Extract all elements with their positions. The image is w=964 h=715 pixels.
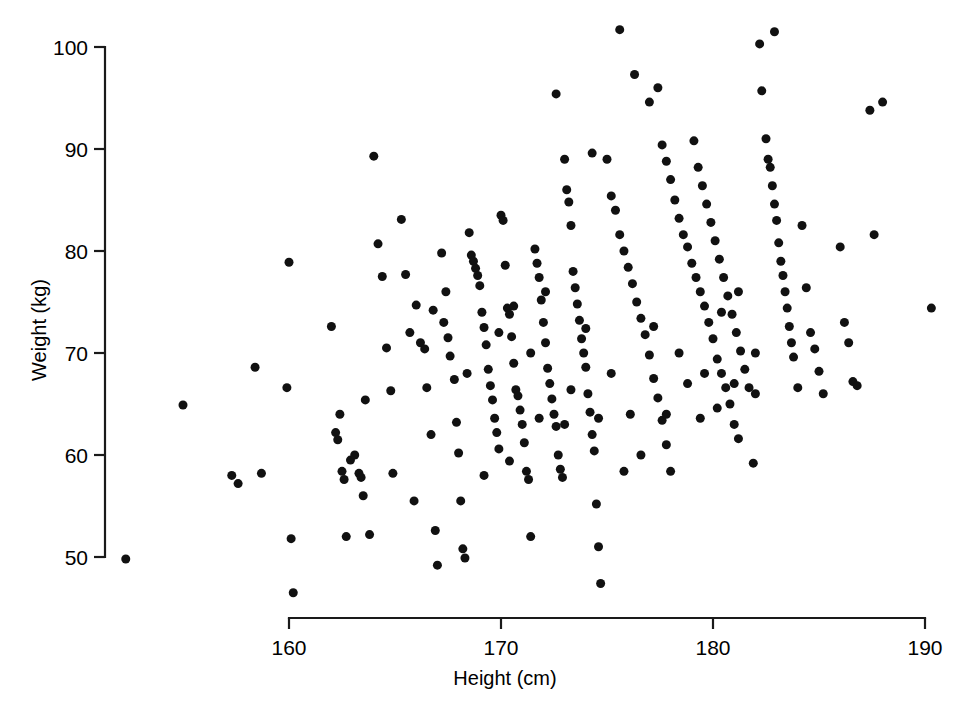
data-point — [736, 346, 745, 355]
data-point — [641, 330, 650, 339]
data-point — [619, 467, 628, 476]
data-point — [386, 386, 395, 395]
data-point — [378, 272, 387, 281]
data-point — [121, 555, 130, 564]
data-point — [566, 221, 575, 230]
data-point — [689, 136, 698, 145]
data-point — [560, 155, 569, 164]
data-point — [501, 261, 510, 270]
data-point — [227, 471, 236, 480]
data-point — [594, 414, 603, 423]
data-point — [766, 163, 775, 172]
data-point — [719, 273, 728, 282]
data-point — [658, 140, 667, 149]
y-axis: 5060708090100 — [53, 36, 105, 569]
data-point — [607, 369, 616, 378]
data-point — [762, 134, 771, 143]
data-point — [437, 249, 446, 258]
data-point — [630, 70, 639, 79]
data-point — [545, 379, 554, 388]
data-point — [547, 394, 556, 403]
y-tick-label: 80 — [65, 240, 88, 263]
data-point — [702, 200, 711, 209]
data-point — [541, 338, 550, 347]
data-point — [751, 349, 760, 358]
data-point — [694, 163, 703, 172]
x-tick-label: 180 — [695, 636, 730, 659]
data-point — [776, 257, 785, 266]
data-point — [526, 532, 535, 541]
data-point — [342, 532, 351, 541]
data-point — [725, 400, 734, 409]
data-point — [653, 393, 662, 402]
data-point — [734, 434, 743, 443]
data-point — [783, 304, 792, 313]
data-point — [234, 479, 243, 488]
data-point — [535, 414, 544, 423]
y-tick-label: 90 — [65, 138, 88, 161]
y-tick-label: 60 — [65, 444, 88, 467]
data-point — [463, 369, 472, 378]
data-point — [594, 542, 603, 551]
data-point — [492, 428, 501, 437]
data-point — [410, 496, 419, 505]
data-point — [764, 155, 773, 164]
data-point — [819, 389, 828, 398]
data-point — [836, 242, 845, 251]
data-point — [482, 340, 491, 349]
data-point — [628, 279, 637, 288]
data-point — [596, 579, 605, 588]
data-point — [518, 420, 527, 429]
data-point — [793, 383, 802, 392]
data-point — [755, 39, 764, 48]
data-point — [615, 25, 624, 34]
data-point — [333, 435, 342, 444]
data-point — [257, 469, 266, 478]
scatter-plot-figure: 5060708090100 160170180190 Weight (kg) H… — [0, 0, 964, 715]
data-point — [581, 363, 590, 372]
data-point — [494, 444, 503, 453]
data-point — [853, 381, 862, 390]
data-point — [670, 196, 679, 205]
data-point — [520, 438, 529, 447]
data-point — [770, 27, 779, 36]
data-point — [505, 457, 514, 466]
data-point — [397, 215, 406, 224]
data-point — [721, 383, 730, 392]
data-point — [526, 349, 535, 358]
data-point — [365, 530, 374, 539]
data-point — [770, 200, 779, 209]
data-point — [732, 328, 741, 337]
data-point — [683, 379, 692, 388]
data-point — [713, 404, 722, 413]
y-tick-label: 100 — [53, 36, 88, 59]
data-point — [507, 332, 516, 341]
data-point — [717, 308, 726, 317]
data-point — [666, 175, 675, 184]
data-point — [524, 475, 533, 484]
x-tick-label: 170 — [483, 636, 518, 659]
data-point — [420, 344, 429, 353]
data-point — [289, 588, 298, 597]
data-point — [624, 263, 633, 272]
data-point — [711, 236, 720, 245]
data-point — [282, 383, 291, 392]
data-point — [619, 247, 628, 256]
data-point — [789, 353, 798, 362]
x-axis: 160170180190 — [271, 618, 942, 659]
data-point — [401, 270, 410, 279]
data-point — [573, 300, 582, 309]
data-point — [590, 446, 599, 455]
data-point — [787, 338, 796, 347]
data-point — [709, 334, 718, 343]
data-point — [571, 283, 580, 292]
data-point — [768, 181, 777, 190]
data-point — [431, 526, 440, 535]
data-point — [369, 152, 378, 161]
data-point — [484, 365, 493, 374]
data-point — [441, 287, 450, 296]
data-point — [577, 334, 586, 343]
data-point — [687, 259, 696, 268]
data-point — [751, 389, 760, 398]
data-point — [456, 496, 465, 505]
